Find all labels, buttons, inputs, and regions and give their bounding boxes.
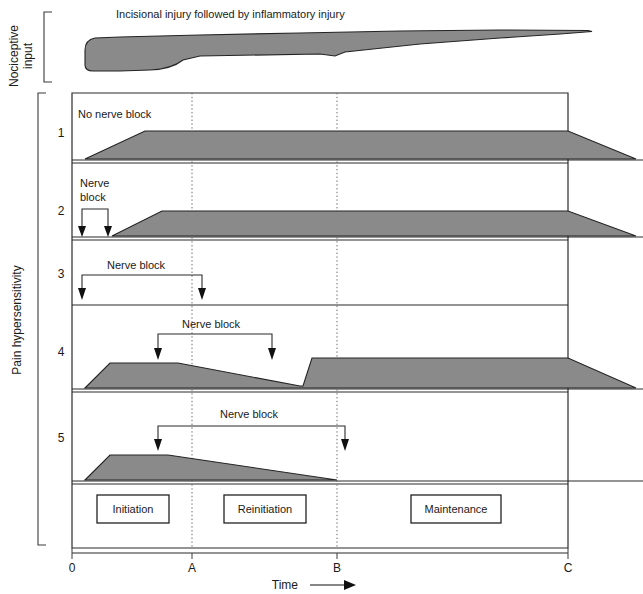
panel-5-arrow-right-icon bbox=[341, 439, 349, 451]
panel-4-arrow-right-icon bbox=[268, 348, 276, 360]
panel-1-pain-region bbox=[85, 131, 636, 159]
panel-2-arrow-left-icon bbox=[78, 226, 86, 237]
panel-1-annotation: No nerve block bbox=[78, 108, 152, 120]
pain-hypersensitivity-figure: Nociceptive input Incisional injury foll… bbox=[0, 0, 643, 594]
panel-2-arrow-right-icon bbox=[104, 226, 112, 237]
row-number-3: 3 bbox=[58, 267, 65, 281]
time-arrow-icon bbox=[310, 580, 356, 590]
figure-canvas: Nociceptive input Incisional injury foll… bbox=[0, 0, 643, 594]
nociceptive-label-line2: input bbox=[21, 42, 35, 69]
nociceptive-input-section: Nociceptive input Incisional injury foll… bbox=[7, 8, 592, 87]
panel-2-nerve-block-bracket bbox=[82, 209, 108, 226]
panel-2-nerve-block-label-line1: Nerve bbox=[80, 177, 109, 189]
row-number-2: 2 bbox=[58, 204, 65, 218]
panel-3-nerve-block-label: Nerve block bbox=[107, 259, 166, 271]
panel-5-nerve-block-label: Nerve block bbox=[220, 408, 279, 420]
panel-5-nerve-block-bracket bbox=[158, 426, 345, 439]
row-number-4: 4 bbox=[58, 345, 65, 359]
phase-label-reinitiation: Reinitiation bbox=[238, 503, 292, 515]
panel-4-pain-region bbox=[85, 358, 636, 388]
nociceptive-input-curve bbox=[85, 30, 592, 71]
panel-3-nerve-block-bracket bbox=[82, 275, 202, 288]
row-number-5: 5 bbox=[58, 431, 65, 445]
panel-1: No nerve block bbox=[78, 108, 636, 159]
pain-hypersensitivity-section: Pain hypersensitivity 1 2 3 4 5 bbox=[10, 93, 643, 592]
phase-label-maintenance: Maintenance bbox=[425, 503, 488, 515]
nociceptive-bracket bbox=[44, 12, 52, 82]
pain-hypersensitivity-label: Pain hypersensitivity bbox=[10, 265, 24, 374]
panel-5-pain-region bbox=[85, 455, 337, 480]
panel-4-nerve-block-bracket bbox=[158, 334, 272, 348]
panel-5: Nerve block bbox=[85, 408, 349, 480]
panel-3-arrow-right-icon bbox=[198, 288, 206, 300]
x-tick-label-b: B bbox=[333, 561, 341, 575]
nociceptive-label-line1: Nociceptive bbox=[7, 25, 21, 87]
panel-3: Nerve block bbox=[78, 259, 206, 300]
x-tick-label-0: 0 bbox=[69, 561, 76, 575]
panel-4-arrow-left-icon bbox=[154, 348, 162, 360]
pain-hypersensitivity-bracket bbox=[38, 93, 46, 545]
x-axis-title: Time bbox=[272, 578, 299, 592]
panel-5-arrow-left-icon bbox=[154, 439, 162, 451]
panel-4: Nerve block bbox=[85, 318, 636, 388]
panel-2: Nerve block bbox=[78, 177, 636, 237]
top-chart-title: Incisional injury followed by inflammato… bbox=[116, 8, 345, 20]
x-axis: 0 A B C Time bbox=[69, 548, 573, 592]
panel-2-nerve-block-label-line2: block bbox=[80, 191, 106, 203]
panel-3-arrow-left-icon bbox=[78, 288, 86, 300]
phase-label-initiation: Initiation bbox=[113, 503, 154, 515]
x-tick-label-c: C bbox=[564, 561, 573, 575]
x-tick-label-a: A bbox=[188, 561, 196, 575]
phase-label-row: Initiation Reinitiation Maintenance bbox=[97, 495, 501, 523]
row-number-1: 1 bbox=[58, 126, 65, 140]
panel-2-pain-region bbox=[112, 211, 636, 236]
panel-4-nerve-block-label: Nerve block bbox=[182, 318, 241, 330]
